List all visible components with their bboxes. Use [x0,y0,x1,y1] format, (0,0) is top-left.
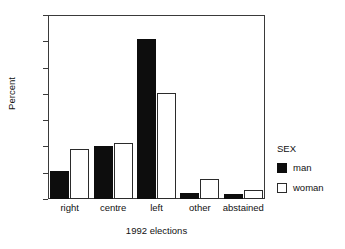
bar-group [137,15,176,199]
bar-man-other [180,193,199,199]
x-axis-title: 1992 elections [48,225,265,236]
bar-woman-centre [114,143,133,199]
bar-man-left [137,39,156,199]
y-axis: Percent 010203040506070 [0,0,48,249]
bar-man-abstained [224,194,243,199]
bar-group [224,15,263,199]
legend-label-man: man [293,162,311,173]
x-axis-tick-label: left [150,202,163,213]
bar-woman-other [200,179,219,199]
bar-man-centre [94,146,113,199]
legend-label-woman: woman [293,182,324,193]
bar-group [180,15,219,199]
legend-title: SEX [277,143,345,154]
x-axis-tick-label: right [60,202,78,213]
bar-group [94,15,133,199]
legend-swatch-woman-icon [277,183,287,193]
bar-woman-right [70,149,89,199]
legend-item-woman: woman [277,182,345,193]
y-axis-title: Percent [6,59,17,129]
bar-chart: Percent 010203040506070 rightcentrelefto… [0,0,345,249]
legend-item-man: man [277,162,345,173]
bar-group [50,15,89,199]
bar-man-right [50,171,69,199]
bars-layer [48,15,265,199]
bar-woman-abstained [244,190,263,199]
x-axis-tick-labels: rightcentreleftotherabstained [48,202,265,218]
x-axis-tick-label: centre [100,202,126,213]
bar-woman-left [157,93,176,199]
x-axis-tick-label: abstained [223,202,264,213]
legend-swatch-man-icon [277,163,287,173]
y-axis-tick-mark [43,199,48,200]
legend: SEX man woman [277,143,345,202]
x-axis-tick-label: other [189,202,211,213]
